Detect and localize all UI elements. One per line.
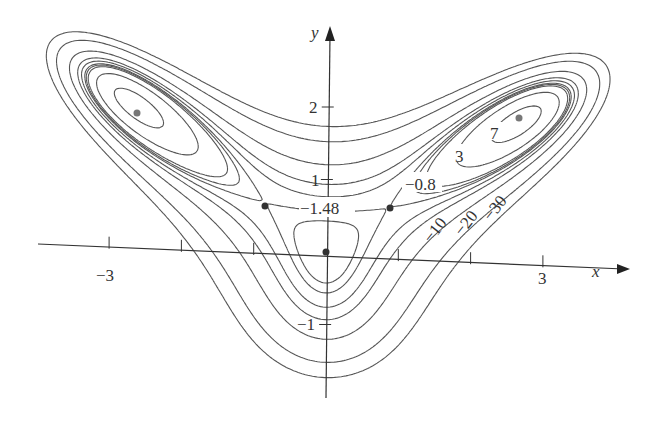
x-tick-label-3: 3 xyxy=(538,269,547,288)
max-point-left xyxy=(134,110,141,117)
y-tick-label-2: 2 xyxy=(309,98,318,117)
contour-label-neg20: −20 xyxy=(450,207,481,240)
x-axis-label: x xyxy=(591,262,600,281)
y-axis-label: y xyxy=(309,23,319,42)
contour-label-7: 7 xyxy=(490,124,499,143)
contour-label-neg0.8: −0.8 xyxy=(405,175,436,194)
contour-label-neg1.48: −1.48 xyxy=(300,199,339,218)
contour-label-neg30: −30 xyxy=(479,192,510,225)
y-axis-arrow-icon xyxy=(325,26,335,41)
contour-label-3: 3 xyxy=(455,147,464,166)
x-axis-arrow-icon xyxy=(617,264,630,274)
y-tick-label-neg1: −1 xyxy=(297,315,315,334)
contour-plot: y x −3 3 2 1 −1 7 3 −0.8 −1.48 −10 −20 −… xyxy=(0,0,650,425)
contour-svg: y x −3 3 2 1 −1 7 3 −0.8 −1.48 −10 −20 −… xyxy=(0,0,650,425)
saddle-point-right xyxy=(387,205,394,212)
x-tick-label-neg3: −3 xyxy=(96,266,114,285)
x-axis xyxy=(38,244,624,269)
contour-label-neg10: −10 xyxy=(419,214,450,247)
max-point-right xyxy=(516,115,523,122)
origin-point xyxy=(323,249,330,256)
y-tick-label-1: 1 xyxy=(311,171,320,190)
saddle-point-left xyxy=(262,203,269,210)
